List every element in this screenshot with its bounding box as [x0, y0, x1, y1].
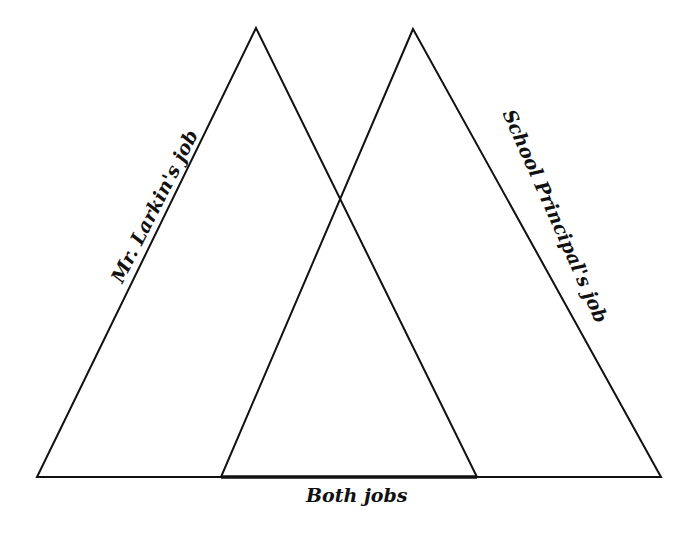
right-triangle — [221, 29, 661, 477]
overlap-label: Both jobs — [306, 484, 407, 506]
left-triangle — [37, 28, 477, 477]
